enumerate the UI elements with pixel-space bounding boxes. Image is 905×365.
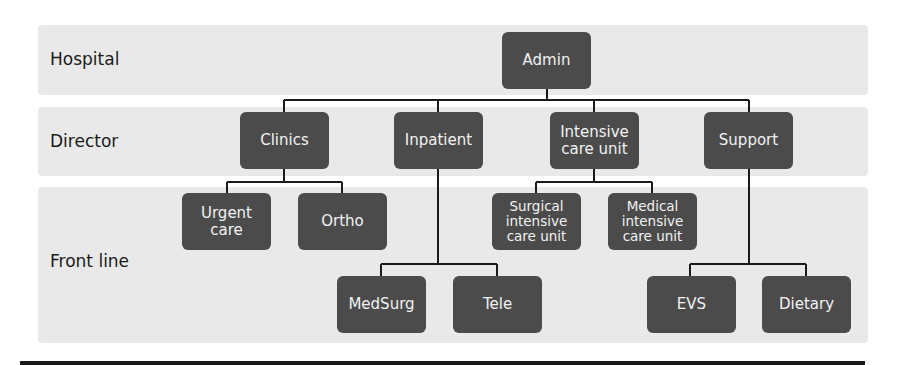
node-tele: Tele xyxy=(453,276,542,333)
node-dietary: Dietary xyxy=(762,276,851,333)
node-ortho: Ortho xyxy=(298,193,387,250)
node-medical-icu: Medical intensive care unit xyxy=(608,193,697,250)
node-admin: Admin xyxy=(502,32,591,89)
node-intensive-care-unit: Intensive care unit xyxy=(550,112,639,169)
node-support: Support xyxy=(704,112,793,169)
node-evs: EVS xyxy=(647,276,736,333)
node-medsurg: MedSurg xyxy=(337,276,426,333)
node-urgent-care: Urgent care xyxy=(182,193,271,250)
node-inpatient: Inpatient xyxy=(394,112,483,169)
node-surgical-icu: Surgical intensive care unit xyxy=(492,193,581,250)
node-clinics: Clinics xyxy=(240,112,329,169)
bottom-rule xyxy=(20,361,865,365)
